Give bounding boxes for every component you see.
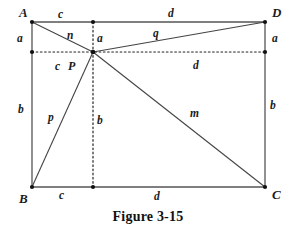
segment-label-left-lower-b: b — [18, 104, 24, 116]
segment-p-to-b — [32, 52, 93, 187]
dot-vertex-c — [263, 185, 267, 189]
segment-label-top-left-c: c — [58, 9, 63, 21]
vertex-label-a: A — [19, 6, 28, 19]
segment-label-center-upper-a: a — [97, 33, 103, 45]
segment-label-left-upper-a: a — [17, 33, 23, 45]
segment-label-mid-right-d: d — [193, 60, 199, 72]
segment-label-diagonal-n: n — [67, 30, 73, 42]
dotted-construction-lines — [32, 22, 265, 187]
vertex-dots — [30, 20, 267, 189]
segment-label-bottom-left-c: c — [59, 190, 64, 202]
vertex-label-c: C — [272, 188, 281, 201]
segment-label-diagonal-q: q — [153, 28, 159, 40]
vertex-label-b: B — [19, 192, 28, 205]
dot-foot-left — [30, 50, 34, 54]
segment-p-to-d — [93, 22, 265, 52]
figure-caption: Figure 3-15 — [0, 209, 296, 225]
vertex-label-d: D — [272, 6, 281, 19]
dot-vertex-a — [30, 20, 34, 24]
segment-p-to-c — [93, 52, 265, 187]
dot-foot-right — [263, 50, 267, 54]
dot-point-p — [91, 50, 96, 55]
segment-label-diagonal-p: p — [48, 112, 54, 124]
figure-container: A B C D P c d a a a n q c d b b b p m c … — [0, 0, 296, 232]
dot-foot-bottom — [91, 185, 95, 189]
rectangle-outline — [32, 22, 265, 187]
segment-label-right-lower-b: b — [270, 100, 276, 112]
point-label-p: P — [68, 60, 75, 72]
segment-label-mid-left-c: c — [55, 61, 60, 73]
segment-label-center-lower-b: b — [97, 115, 103, 127]
segment-label-bottom-right-d: d — [154, 191, 160, 203]
dot-vertex-b — [30, 185, 34, 189]
segment-label-right-upper-a: a — [272, 33, 278, 45]
dot-vertex-d — [263, 20, 267, 24]
segment-p-to-a — [32, 22, 93, 52]
segment-label-diagonal-m: m — [190, 108, 199, 120]
geometry-diagram — [0, 0, 296, 232]
dot-foot-top — [91, 20, 95, 24]
segment-label-top-right-d: d — [168, 8, 174, 20]
radial-segments-from-p — [32, 22, 265, 187]
